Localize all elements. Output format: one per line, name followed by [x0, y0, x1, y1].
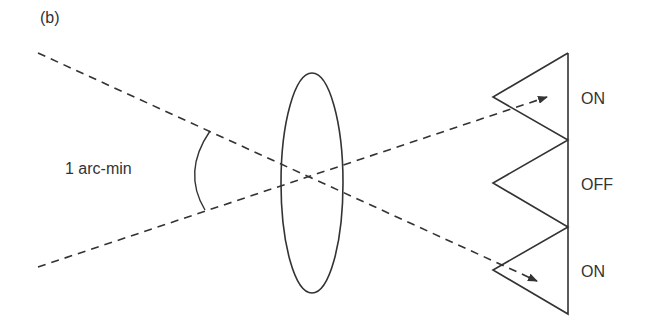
- state-label-middle: OFF: [581, 177, 613, 193]
- lens-ellipse: [281, 73, 343, 293]
- ray-bottom-left-to-top-right: [38, 97, 547, 267]
- angle-arc: [195, 131, 210, 210]
- panel-label: (b): [40, 10, 60, 26]
- detector-zigzag: [493, 53, 568, 314]
- state-label-top: ON: [581, 91, 605, 107]
- angle-label: 1 arc-min: [65, 161, 132, 177]
- state-label-bottom: ON: [581, 264, 605, 280]
